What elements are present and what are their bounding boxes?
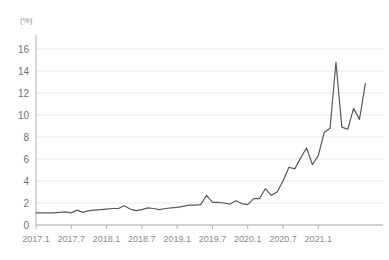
x-axis-tick-label: 2020.7: [269, 234, 297, 244]
y-axis-tick-label: 10: [18, 110, 30, 121]
x-axis-ticks: [36, 225, 318, 229]
y-axis-tick-label: 16: [18, 44, 30, 55]
y-axis-tick-label: 2: [23, 198, 29, 209]
line-chart: 0246810121416 2017.12017.72018.12018.720…: [0, 0, 389, 260]
chart-container: (%) 0246810121416 2017.12017.72018.12018…: [0, 0, 389, 260]
y-axis-tick-label: 4: [23, 176, 29, 187]
x-axis-tick-label: 2019.7: [199, 234, 227, 244]
x-axis-tick-label: 2018.1: [93, 234, 121, 244]
y-axis-tick-label: 12: [18, 88, 30, 99]
x-axis-tick-label: 2017.7: [58, 234, 86, 244]
y-axis-tick-label: 14: [18, 66, 30, 77]
x-axis-tick-label: 2020.1: [234, 234, 262, 244]
data-series-line: [36, 62, 365, 213]
y-axis-tick-label: 0: [23, 220, 29, 231]
y-axis-tick-label: 8: [23, 132, 29, 143]
y-axis-tick-labels: 0246810121416: [18, 44, 30, 231]
x-axis-tick-label: 2018.7: [128, 234, 156, 244]
x-axis-tick-labels: 2017.12017.72018.12018.72019.12019.72020…: [22, 234, 332, 244]
x-axis-tick-label: 2017.1: [22, 234, 50, 244]
x-axis-tick-label: 2021.1: [305, 234, 333, 244]
x-axis-tick-label: 2019.1: [163, 234, 191, 244]
y-axis-tick-label: 6: [23, 154, 29, 165]
